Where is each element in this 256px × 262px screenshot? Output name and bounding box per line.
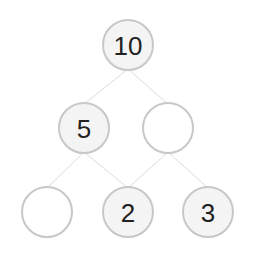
node-middle-right-empty[interactable] <box>143 103 193 153</box>
node-middle-left: 5 <box>59 103 109 153</box>
node-middle-left-label: 5 <box>77 114 91 144</box>
node-bottom-left-empty[interactable] <box>22 187 72 237</box>
edge-5-2 <box>84 152 128 188</box>
edge-10-5 <box>84 69 128 104</box>
node-bottom-right: 3 <box>183 187 233 237</box>
edge-empty-2 <box>128 152 168 188</box>
edge-empty-3 <box>168 152 208 188</box>
edge-10-empty <box>128 69 168 104</box>
number-bond-diagram: 10 5 2 3 <box>0 0 256 262</box>
node-top: 10 <box>103 20 153 70</box>
node-bottom-middle-label: 2 <box>121 198 135 228</box>
node-bottom-middle: 2 <box>103 187 153 237</box>
edge-5-empty <box>47 152 84 188</box>
node-top-label: 10 <box>114 31 143 61</box>
node-bottom-right-label: 3 <box>201 198 215 228</box>
